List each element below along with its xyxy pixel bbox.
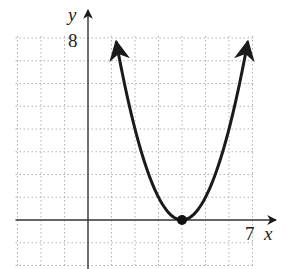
grid-lines xyxy=(16,36,255,268)
x-axis-label: x xyxy=(263,223,273,244)
y-axis-label: y xyxy=(66,4,77,25)
parabola-graph: y 8 7 x xyxy=(0,0,285,269)
vertex-point xyxy=(177,215,187,225)
y-max-tick-label: 8 xyxy=(68,30,78,51)
x-max-tick-label: 7 xyxy=(245,223,255,244)
axes xyxy=(16,10,277,269)
